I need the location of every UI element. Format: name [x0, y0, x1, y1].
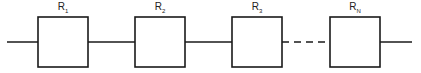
- block-r2: [135, 17, 185, 67]
- label-r1: R1: [43, 1, 83, 14]
- label-r3: R3: [237, 1, 277, 14]
- label-r2: R2: [140, 1, 180, 14]
- block-r3: [232, 17, 282, 67]
- label-rn: RN: [335, 1, 375, 14]
- block-rn: [330, 17, 380, 67]
- block-r1: [38, 17, 88, 67]
